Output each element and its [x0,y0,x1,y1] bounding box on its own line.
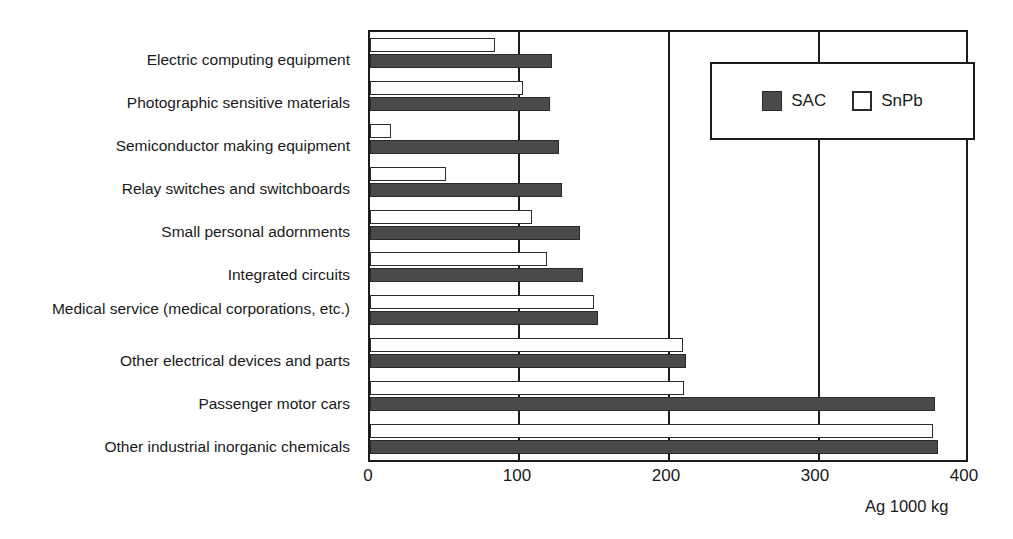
x-tick-label: 100 [503,466,531,486]
bar-sac [370,54,552,68]
category-label: Relay switches and switchboards [0,180,350,198]
category-axis-labels: Electric computing equipment Photographi… [0,30,360,462]
category-label: Electric computing equipment [0,51,350,69]
bar-snpb [370,210,532,224]
x-tick-label: 0 [363,466,372,486]
category-label: Other industrial inorganic chemicals [0,438,350,456]
bar-snpb [370,424,933,438]
bar-snpb [370,338,683,352]
legend-label-snpb: SnPb [881,91,923,111]
category-label: Semiconductor making equipment [0,137,350,155]
category-label: Medical service (medical corporations, e… [0,300,350,318]
bar-snpb [370,252,547,266]
x-axis-tick-labels: 0100200300400 [0,466,1013,490]
legend-swatch-sac-icon [762,91,782,111]
category-label: Small personal adornments [0,223,350,241]
legend-item-snpb: SnPb [852,91,923,111]
x-axis-title: Ag 1000 kg [865,497,948,516]
bar-sac [370,397,935,411]
bar-snpb [370,295,594,309]
legend-item-sac: SAC [762,91,826,111]
category-label: Other electrical devices and parts [0,352,350,370]
legend-swatch-snpb-icon [852,91,872,111]
bar-sac [370,140,559,154]
bar-sac [370,311,598,325]
x-tick-label: 200 [652,466,680,486]
bar-sac [370,183,562,197]
x-tick-label: 300 [801,466,829,486]
chart-legend: SAC SnPb [710,62,975,140]
category-label: Passenger motor cars [0,395,350,413]
bar-sac [370,226,580,240]
x-tick-label: 400 [950,466,978,486]
bar-sac [370,97,550,111]
bar-snpb [370,38,495,52]
category-label: Photographic sensitive materials [0,94,350,112]
bar-sac [370,354,686,368]
bar-sac [370,268,583,282]
bar-snpb [370,167,446,181]
bar-snpb [370,381,684,395]
chart-container: Electric computing equipment Photographi… [0,0,1013,539]
legend-label-sac: SAC [791,91,826,111]
bar-snpb [370,81,523,95]
bar-sac [370,440,938,454]
category-label: Integrated circuits [0,266,350,284]
bar-snpb [370,124,391,138]
